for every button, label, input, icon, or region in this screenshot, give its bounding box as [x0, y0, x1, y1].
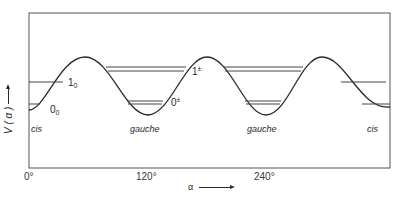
y-axis-text: V ( α ) [3, 107, 14, 134]
level-label-1-0: 10 [68, 78, 77, 89]
plot-frame [29, 13, 390, 168]
potential-plot [0, 0, 405, 202]
level-label-0-0: 00 [50, 105, 59, 116]
well-label-cis-right: cis [367, 125, 378, 134]
potential-energy-diagram: 10 00 1± 0± cis gauche gauche cis 0° 120… [0, 0, 405, 202]
x-tick-240: 240° [254, 172, 275, 182]
x-tick-120: 120° [136, 172, 157, 182]
well-label-gauche-1: gauche [130, 125, 160, 134]
x-axis-label: α [188, 182, 231, 192]
well-label-cis-left: cis [31, 125, 42, 134]
x-axis-symbol: α [188, 182, 193, 192]
well-label-gauche-2: gauche [247, 125, 277, 134]
y-axis-label: V ( α ) [2, 64, 14, 134]
right-arrow-icon [199, 187, 231, 188]
potential-curve [29, 57, 390, 115]
up-arrow-icon [8, 88, 9, 104]
x-tick-0: 0° [24, 172, 34, 182]
level-label-0-pm: 0± [171, 96, 180, 108]
level-label-1-pm: 1± [192, 65, 201, 77]
